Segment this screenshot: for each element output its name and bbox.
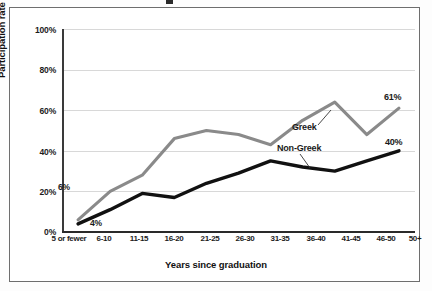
series-label-non-greek: Non-Greek — [277, 143, 321, 153]
annotation-non-greek-end: 40% — [385, 137, 402, 147]
chart-screenshot: 100% 80% 60% 40% 20% 0% Participation ra… — [0, 0, 432, 291]
x-axis-title: Years since graduation — [0, 259, 432, 270]
series-layer — [0, 0, 432, 291]
series-label-greek: Greek — [292, 122, 317, 132]
non-greek-series-line — [78, 151, 399, 224]
annotation-greek-start: 6% — [58, 182, 70, 192]
x-tick-10: 50+ — [387, 234, 432, 243]
annotation-non-greek-start: 4% — [90, 218, 102, 228]
annotation-greek-end: 61% — [384, 92, 401, 102]
